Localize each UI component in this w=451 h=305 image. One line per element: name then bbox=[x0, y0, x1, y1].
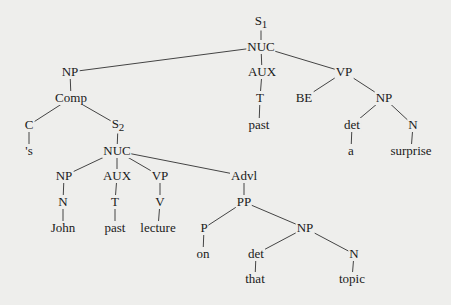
node-label: on bbox=[197, 246, 210, 261]
tree-node-past1: past bbox=[248, 118, 271, 132]
node-label: Comp bbox=[55, 90, 87, 105]
tree-node-be: BE bbox=[295, 91, 314, 105]
node-label: topic bbox=[339, 271, 365, 286]
tree-node-vp2: VP bbox=[151, 169, 170, 183]
node-label: NP bbox=[376, 90, 393, 105]
node-label: BE bbox=[296, 90, 313, 105]
tree-node-n3: N bbox=[348, 247, 359, 261]
node-label: N bbox=[58, 194, 67, 209]
node-label: det bbox=[344, 117, 360, 132]
node-label: det bbox=[248, 246, 264, 261]
node-label: VP bbox=[336, 64, 353, 79]
syntax-tree: S1NUCNPAUXVPCompTBENPCS2pastdetN'sNUCasu… bbox=[0, 0, 451, 305]
tree-node-v: V bbox=[154, 195, 165, 209]
node-label: T bbox=[111, 194, 119, 209]
node-label: PP bbox=[237, 194, 251, 209]
tree-node-topic: topic bbox=[338, 272, 366, 286]
node-label: 's bbox=[25, 143, 32, 158]
tree-node-c: C bbox=[24, 118, 35, 132]
tree-node-t2: T bbox=[110, 195, 120, 209]
node-label: N bbox=[349, 246, 358, 261]
node-label: NP bbox=[56, 168, 73, 183]
node-label: T bbox=[256, 90, 264, 105]
tree-node-john: John bbox=[50, 221, 77, 235]
tree-node-nuc1: NUC bbox=[246, 40, 275, 54]
node-subscript: 2 bbox=[119, 121, 125, 133]
node-label: VP bbox=[152, 168, 169, 183]
tree-node-vp1: VP bbox=[335, 65, 354, 79]
node-subscript: 1 bbox=[262, 18, 268, 30]
node-label: lecture bbox=[140, 220, 175, 235]
tree-node-aux1: AUX bbox=[247, 65, 277, 79]
tree-node-pp: PP bbox=[236, 195, 252, 209]
node-label: AUX bbox=[103, 168, 131, 183]
tree-node-det2: det bbox=[247, 247, 265, 261]
tree-node-t1: T bbox=[255, 91, 265, 105]
node-label: P bbox=[200, 220, 207, 235]
tree-node-past2: past bbox=[104, 221, 127, 235]
tree-node-det1: det bbox=[343, 118, 361, 132]
tree-node-n1: N bbox=[407, 118, 418, 132]
node-label: NP bbox=[62, 64, 79, 79]
node-label: C bbox=[25, 117, 34, 132]
node-label: past bbox=[105, 220, 126, 235]
node-label: V bbox=[155, 194, 164, 209]
node-label: NUC bbox=[247, 39, 274, 54]
node-label: N bbox=[408, 117, 417, 132]
tree-node-aux2: AUX bbox=[102, 169, 132, 183]
node-label: that bbox=[245, 271, 265, 286]
tree-node-lecture: lecture bbox=[139, 221, 176, 235]
tree-node-poss: 's bbox=[24, 144, 33, 158]
tree-node-advl: Advl bbox=[230, 169, 258, 183]
tree-edges bbox=[0, 0, 451, 305]
node-label: NUC bbox=[103, 143, 130, 158]
tree-node-s2: S2 bbox=[111, 117, 126, 134]
tree-node-on: on bbox=[196, 247, 211, 261]
node-label: NP bbox=[297, 220, 314, 235]
node-label: past bbox=[249, 117, 270, 132]
tree-node-surprise: surprise bbox=[389, 144, 432, 158]
tree-node-comp: Comp bbox=[54, 91, 88, 105]
tree-edge bbox=[117, 151, 244, 176]
tree-node-n2: N bbox=[57, 195, 68, 209]
tree-node-np3: NP bbox=[55, 169, 74, 183]
node-label: AUX bbox=[248, 64, 276, 79]
node-label: Advl bbox=[231, 168, 257, 183]
tree-node-nuc2: NUC bbox=[102, 144, 131, 158]
node-label: a bbox=[348, 143, 354, 158]
tree-node-np4: NP bbox=[296, 221, 315, 235]
tree-node-p: P bbox=[199, 221, 208, 235]
tree-node-that: that bbox=[244, 272, 266, 286]
tree-edge bbox=[70, 47, 261, 72]
tree-node-a: a bbox=[347, 144, 355, 158]
node-label: surprise bbox=[390, 143, 431, 158]
node-label: John bbox=[51, 220, 76, 235]
tree-node-np2: NP bbox=[375, 91, 394, 105]
tree-node-s1: S1 bbox=[254, 14, 269, 31]
tree-node-np1: NP bbox=[61, 65, 80, 79]
